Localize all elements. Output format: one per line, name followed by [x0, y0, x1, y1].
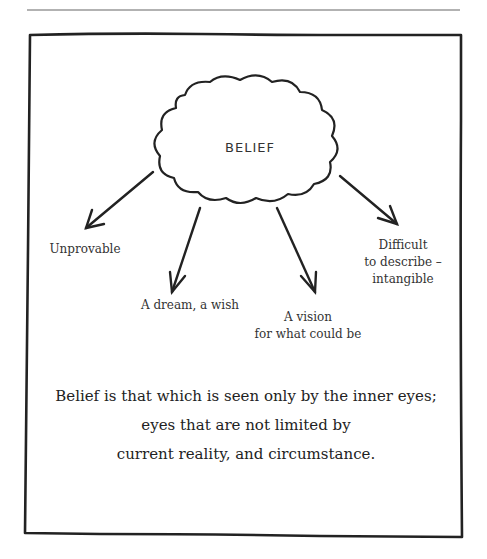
belief-quote: Belief is that which is seen only by the… — [30, 382, 462, 469]
quote-line: current reality, and circumstance. — [30, 440, 462, 469]
arrow-vision-icon — [277, 208, 316, 292]
branch-label-line: A vision — [238, 309, 378, 326]
arrow-unprovable-icon — [86, 172, 153, 228]
branch-label-vision: A vision for what could be — [238, 309, 378, 343]
branch-label-line: to describe – — [343, 254, 463, 271]
branch-label-line: intangible — [343, 271, 463, 288]
branch-label-line: Difficult — [343, 237, 463, 254]
arrow-difficult-icon — [340, 176, 397, 224]
arrow-dream-icon — [170, 208, 200, 292]
branch-label-unprovable: Unprovable — [35, 241, 135, 258]
central-concept: BELIEF — [200, 140, 300, 155]
quote-line: Belief is that which is seen only by the… — [30, 382, 462, 411]
branch-label-line: for what could be — [238, 326, 378, 343]
quote-line: eyes that are not limited by — [30, 411, 462, 440]
branch-label-line: Unprovable — [35, 241, 135, 258]
branch-label-difficult: Difficult to describe – intangible — [343, 237, 463, 288]
